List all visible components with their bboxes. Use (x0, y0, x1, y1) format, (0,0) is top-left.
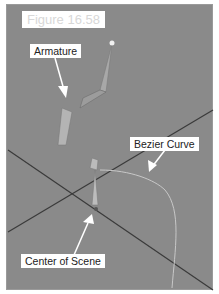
armature-tip-joint (110, 41, 115, 46)
figure-title: Figure 16.58 (22, 11, 105, 28)
center-arrowhead (83, 214, 94, 224)
center-arrow (74, 223, 88, 255)
bezier-curve (100, 170, 176, 288)
bezier-curve-label: Bezier Curve (130, 137, 199, 151)
armature-bone-lower (58, 108, 72, 145)
figure: Figure 16.58 Armature Bezier Curve Cente… (0, 0, 219, 294)
armature-arrowhead (58, 86, 68, 98)
center-of-scene-label: Center of Scene (21, 254, 105, 268)
armature-bone-middle (80, 90, 106, 108)
armature-bone-upper (100, 44, 112, 92)
armature-bone-hip (90, 158, 98, 170)
armature-bone-base (92, 170, 98, 205)
armature-label: Armature (30, 44, 81, 58)
armature-arrow (55, 58, 64, 90)
scene-center-marker (94, 207, 98, 211)
